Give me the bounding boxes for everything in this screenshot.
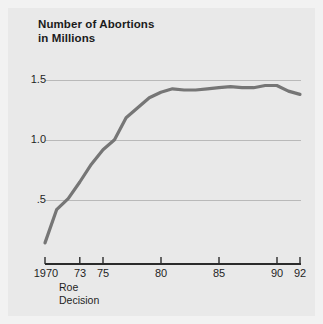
abortions-line (45, 86, 300, 243)
roe-decision-annotation: Roe Decision (59, 281, 99, 306)
x-tick-label-75: 75 (89, 267, 117, 279)
x-tick-label-80: 80 (147, 267, 175, 279)
y-tick-label-1-0: 1.0 (14, 133, 46, 145)
roe-annotation-line-2: Decision (59, 294, 99, 307)
y-tick-label-1-5: 1.5 (14, 73, 46, 85)
roe-annotation-line-1: Roe (59, 281, 99, 294)
x-tick-label-1970: 1970 (29, 267, 63, 279)
x-tick-label-85: 85 (205, 267, 233, 279)
x-tick-label-92: 92 (286, 267, 314, 279)
y-tick-label-0-5: .5 (14, 193, 46, 205)
gridlines (45, 80, 301, 200)
data-series-line (45, 86, 300, 243)
x-axis (45, 257, 301, 264)
chart-figure: Number of Abortions in Millions 1.5 1.0 … (0, 0, 323, 324)
